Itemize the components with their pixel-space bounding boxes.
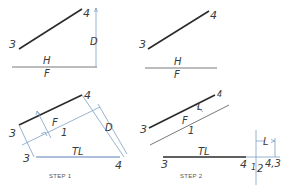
panel-step-2: 3 4 L F 1 TL 3 4 1 2 4,3 L STEP 2 [140, 90, 281, 185]
point-label-3: 3 [139, 38, 146, 51]
point-view-label: 4,3 [265, 158, 281, 169]
fold-label-1: 1 [61, 127, 67, 138]
dimension-label-l-top: L [197, 101, 203, 112]
arrow-icon [271, 140, 275, 143]
dimension-label-d: D [105, 122, 113, 133]
dimension-label-d: D [90, 36, 98, 47]
fold-label-1-lower: 1 [251, 163, 256, 172]
fold-label-1: 1 [188, 125, 194, 136]
panel-top-left: 3 4 D H F [9, 7, 98, 79]
fold-label-h: H [43, 55, 51, 66]
point-label-4-bottom: 4 [115, 159, 122, 172]
point-label-3: 3 [9, 38, 16, 51]
step-caption: STEP 2 [180, 173, 203, 179]
fold-label-2: 2 [257, 163, 263, 174]
fold-label-f: F [44, 68, 50, 79]
panel-top-right: 3 4 H F [139, 9, 217, 80]
step-caption: STEP 1 [49, 173, 72, 179]
point-label-3-top: 3 [140, 123, 147, 136]
point-label-4: 4 [83, 7, 90, 20]
line-3-4 [148, 11, 209, 49]
projector-4 [82, 95, 124, 157]
fold-label-f: F [174, 69, 180, 80]
fold-line-f-1 [22, 107, 100, 145]
dimension-label-l-right: L [263, 136, 269, 147]
point-label-4: 4 [210, 9, 217, 22]
true-length-label: TL [198, 146, 210, 157]
point-label-4-bottom: 4 [240, 158, 247, 171]
panel-step-1: 3 4 3 4 F 1 D TL STEP 1 [9, 89, 127, 179]
point-label-4-top: 4 [84, 89, 91, 102]
fold-label-h: H [174, 56, 182, 67]
true-length-label: TL [72, 146, 84, 157]
point-label-4-top: 4 [217, 90, 222, 99]
diagram-canvas: 3 4 D H F 3 4 H F 3 4 3 4 F 1 D [0, 0, 294, 190]
point-label-3-top: 3 [9, 127, 16, 140]
point-label-3-bottom: 3 [161, 158, 168, 171]
point-label-3-bottom: 3 [23, 152, 30, 165]
line-3-4 [19, 9, 82, 49]
fold-label-f: F [52, 117, 58, 128]
